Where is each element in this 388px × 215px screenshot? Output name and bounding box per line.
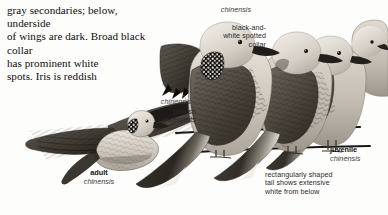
label-juvenile-species: chinensis <box>330 155 388 164</box>
callout-pinkish-underparts: pinkish underparts <box>128 108 196 125</box>
perched-dove-rear-edge <box>352 20 388 96</box>
wing-detail-sketch <box>156 40 208 103</box>
description-text: gray secondaries; below, underside of wi… <box>7 4 159 83</box>
label-adult-species: chinensis <box>68 178 130 187</box>
label-adult: adult chinensis <box>68 169 130 186</box>
callout-wing-detail-species: chinensis <box>148 98 204 106</box>
callout-upper-species: chinensis <box>206 6 266 14</box>
callout-spotted-collar: black-and- white spotted collar <box>196 24 266 49</box>
label-juvenile: juvenile chinensis <box>330 146 388 163</box>
field-guide-plate: gray secondaries; below, underside of wi… <box>0 0 388 215</box>
perched-dove-middle <box>214 32 343 181</box>
callout-tail-note: rectangularly shaped tail shows extensiv… <box>265 171 385 196</box>
